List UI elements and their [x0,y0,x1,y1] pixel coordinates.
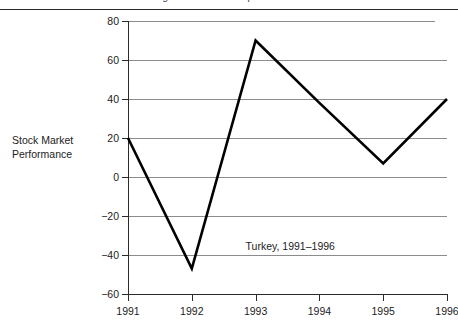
figure-caption-fragment: Figure: stock market performance [0,0,458,3]
x-axis-tick-label: 1995 [372,305,395,317]
y-axis-tick-label: −60 [101,288,119,300]
chart-figure: Figure: stock market performance Stock M… [0,0,458,323]
x-axis-tick-label: 1994 [308,305,331,317]
figure-top-rule [0,9,458,10]
plot-area: 806040200−20−40−60 199119921993199419951… [128,21,447,294]
x-axis-tick-label: 1992 [180,305,203,317]
x-axis-tick [256,294,257,301]
x-axis-tick [383,294,384,301]
y-axis-tick-label: 40 [107,93,119,105]
x-axis-line [128,294,447,295]
y-axis-tick-label: 20 [107,132,119,144]
y-axis-title: Stock Market Performance [12,134,90,161]
x-axis-tick [128,294,129,301]
x-axis-tick-label: 1991 [116,305,139,317]
data-series-line [128,21,447,294]
y-axis-tick-label: 80 [107,15,119,27]
y-axis-tick-label: −20 [101,210,119,222]
chart-annotation: Turkey, 1991–1996 [246,240,335,252]
y-axis-tick-label: −40 [101,249,119,261]
x-axis-tick-label: 1996 [435,305,458,317]
x-axis-tick [447,294,448,301]
x-axis-tick [319,294,320,301]
y-axis-tick-label: 0 [113,171,119,183]
x-axis-tick [192,294,193,301]
x-axis-tick-label: 1993 [244,305,267,317]
y-axis-tick-label: 60 [107,54,119,66]
